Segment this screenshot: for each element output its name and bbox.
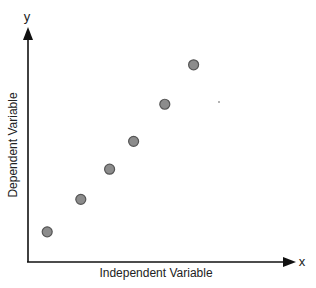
y-axis-symbol: y <box>24 9 31 24</box>
x-axis-symbol: x <box>299 254 306 269</box>
y-axis-label: Dependent Variable <box>6 92 20 198</box>
data-point <box>189 60 199 70</box>
x-axis-arrow-icon <box>283 257 296 267</box>
scatter-chart: y x Independent Variable Dependent Varia… <box>0 0 316 288</box>
data-point <box>42 227 52 237</box>
data-point <box>105 164 115 174</box>
data-point <box>129 136 139 146</box>
data-point <box>160 99 170 109</box>
x-axis-label: Independent Variable <box>99 266 213 280</box>
data-points <box>42 60 198 237</box>
data-point <box>76 194 86 204</box>
y-axis-arrow-icon <box>23 27 33 40</box>
stray-dot <box>218 101 220 103</box>
